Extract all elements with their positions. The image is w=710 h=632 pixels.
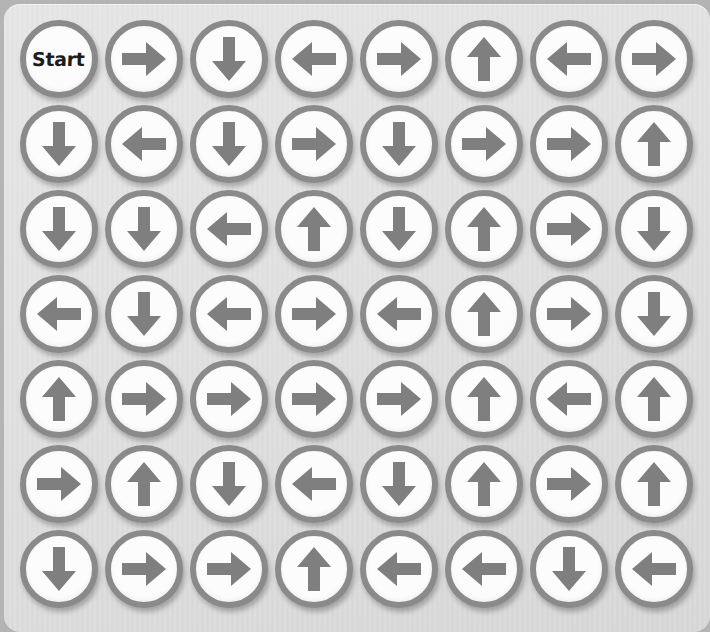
up-arrow-tile[interactable] [615,105,693,183]
grid-cell[interactable] [611,101,696,186]
right-arrow-tile[interactable] [190,530,268,608]
grid-cell[interactable] [356,101,441,186]
right-arrow-tile[interactable] [530,190,608,268]
up-arrow-tile[interactable] [20,360,98,438]
right-arrow-tile[interactable] [190,360,268,438]
grid-cell[interactable] [526,16,611,101]
down-arrow-tile[interactable] [615,190,693,268]
grid-cell[interactable] [101,16,186,101]
grid-cell[interactable] [16,271,101,356]
right-arrow-tile[interactable] [105,360,183,438]
down-arrow-tile[interactable] [530,530,608,608]
down-arrow-tile[interactable] [105,275,183,353]
grid-cell[interactable] [186,16,271,101]
down-arrow-tile[interactable] [20,190,98,268]
grid-cell[interactable] [16,526,101,611]
grid-cell[interactable] [271,441,356,526]
down-arrow-tile[interactable] [190,445,268,523]
right-arrow-tile[interactable] [445,105,523,183]
right-arrow-tile[interactable] [275,105,353,183]
right-arrow-tile[interactable] [530,275,608,353]
right-arrow-tile[interactable] [275,360,353,438]
up-arrow-tile[interactable] [615,445,693,523]
grid-cell[interactable] [356,356,441,441]
left-arrow-tile[interactable] [360,530,438,608]
grid-cell[interactable] [356,186,441,271]
grid-cell[interactable] [271,186,356,271]
left-arrow-tile[interactable] [190,275,268,353]
right-arrow-tile[interactable] [275,275,353,353]
left-arrow-tile[interactable] [275,20,353,98]
grid-cell[interactable] [526,441,611,526]
up-arrow-tile[interactable] [615,360,693,438]
grid-cell[interactable] [526,526,611,611]
grid-cell[interactable] [101,526,186,611]
down-arrow-tile[interactable] [20,105,98,183]
grid-cell[interactable] [611,271,696,356]
right-arrow-tile[interactable] [360,360,438,438]
grid-cell[interactable] [271,101,356,186]
left-arrow-tile[interactable] [20,275,98,353]
grid-cell[interactable] [186,441,271,526]
down-arrow-tile[interactable] [20,530,98,608]
left-arrow-tile[interactable] [615,530,693,608]
grid-cell[interactable] [101,271,186,356]
down-arrow-tile[interactable] [360,190,438,268]
right-arrow-tile[interactable] [105,530,183,608]
grid-cell[interactable]: Start [16,16,101,101]
grid-cell[interactable] [611,186,696,271]
grid-cell[interactable] [101,186,186,271]
grid-cell[interactable] [356,271,441,356]
down-arrow-tile[interactable] [360,105,438,183]
grid-cell[interactable] [441,186,526,271]
start-tile[interactable]: Start [20,20,98,98]
grid-cell[interactable] [271,526,356,611]
grid-cell[interactable] [16,356,101,441]
grid-cell[interactable] [271,271,356,356]
grid-cell[interactable] [186,356,271,441]
grid-cell[interactable] [526,101,611,186]
left-arrow-tile[interactable] [190,190,268,268]
left-arrow-tile[interactable] [105,105,183,183]
right-arrow-tile[interactable] [20,445,98,523]
grid-cell[interactable] [271,16,356,101]
left-arrow-tile[interactable] [360,275,438,353]
left-arrow-tile[interactable] [275,445,353,523]
grid-cell[interactable] [101,356,186,441]
grid-cell[interactable] [611,526,696,611]
grid-cell[interactable] [16,186,101,271]
up-arrow-tile[interactable] [275,530,353,608]
grid-cell[interactable] [16,101,101,186]
grid-cell[interactable] [611,441,696,526]
up-arrow-tile[interactable] [445,445,523,523]
right-arrow-tile[interactable] [530,445,608,523]
up-arrow-tile[interactable] [445,360,523,438]
grid-cell[interactable] [611,356,696,441]
grid-cell[interactable] [526,271,611,356]
grid-cell[interactable] [441,16,526,101]
grid-cell[interactable] [16,441,101,526]
down-arrow-tile[interactable] [190,20,268,98]
grid-cell[interactable] [356,526,441,611]
grid-cell[interactable] [186,101,271,186]
grid-cell[interactable] [441,526,526,611]
grid-cell[interactable] [441,271,526,356]
grid-cell[interactable] [186,526,271,611]
grid-cell[interactable] [526,186,611,271]
grid-cell[interactable] [186,186,271,271]
grid-cell[interactable] [526,356,611,441]
right-arrow-tile[interactable] [105,20,183,98]
left-arrow-tile[interactable] [530,360,608,438]
grid-cell[interactable] [441,356,526,441]
down-arrow-tile[interactable] [190,105,268,183]
up-arrow-tile[interactable] [445,275,523,353]
grid-cell[interactable] [271,356,356,441]
grid-cell[interactable] [101,441,186,526]
right-arrow-tile[interactable] [615,20,693,98]
right-arrow-tile[interactable] [360,20,438,98]
grid-cell[interactable] [611,16,696,101]
left-arrow-tile[interactable] [530,20,608,98]
up-arrow-tile[interactable] [105,445,183,523]
grid-cell[interactable] [441,441,526,526]
up-arrow-tile[interactable] [445,20,523,98]
